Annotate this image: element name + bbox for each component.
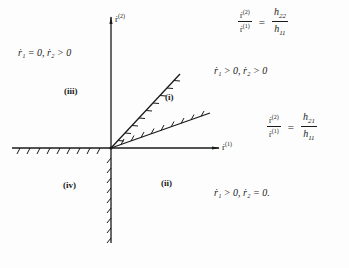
ratio-upper-lhs-num-sup: (2) [243,9,250,15]
ratio-upper-lhs: ṙ(2) ṙ(1) [236,9,254,33]
ratio-lower-lhs-num-sup: (2) [272,114,279,120]
origin-point [109,146,112,149]
hatch-negative-x-axis [17,148,100,154]
condition-region-i: ṙ₁ > 0, ṙ₂ > 0 [214,65,267,76]
region-label-iii: (iii) [64,86,78,96]
boundary-line-h22-h11 [111,74,180,148]
ratio-formula-upper: ṙ(2) ṙ(1) = h22 h11 [236,6,290,37]
x-axis-label-sup: (1) [225,141,232,147]
condition-region-ii: ṙ₁ > 0, ṙ₂ = 0. [214,187,270,198]
region-label-i: (i) [165,92,174,102]
ratio-formula-lower: ṙ(2) ṙ(1) = h21 h11 [265,111,319,142]
ratio-lower-rhs: h21 h11 [299,111,319,142]
region-label-iv: (iv) [63,180,76,190]
x-axis-label: ṙ(1) [222,141,232,152]
ratio-lower-lhs: ṙ(2) ṙ(1) [265,114,283,138]
boundary-line-h21-h11 [111,111,210,148]
ratio-upper-lhs-den-sup: (1) [243,23,250,29]
y-axis-label-sup: (2) [118,13,125,19]
ratio-upper-rhs: h22 h11 [270,6,290,37]
ratio-upper-equals: = [254,16,270,28]
diagram-canvas: ṙ(2) ṙ(1) (iii) (i) (iv) (ii) ṙ₁ = 0, ṙ₂… [0,0,349,268]
condition-region-iii: ṙ₁ = 0, ṙ₂ > 0 [18,47,71,58]
ratio-lower-equals: = [283,121,299,133]
ratio-lower-lhs-den-sup: (1) [272,128,279,134]
region-label-ii: (ii) [161,178,172,188]
y-axis-label: ṙ(2) [115,13,125,24]
